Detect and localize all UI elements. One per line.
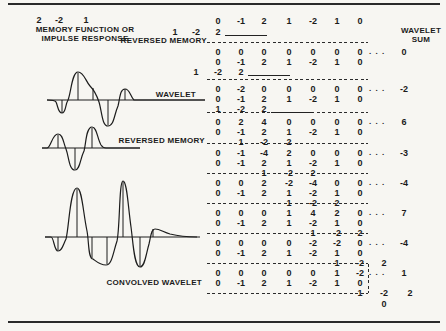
memory-cell: -2 bbox=[356, 259, 364, 268]
wavelet-sum-value: 1 bbox=[401, 269, 406, 278]
wavelet-cell: 0 bbox=[215, 189, 220, 198]
product-cell: 0 bbox=[215, 149, 220, 158]
memory-cell: 2 bbox=[407, 289, 412, 298]
product-cell: 0 bbox=[310, 85, 315, 94]
wavelet-cell: 1 bbox=[334, 249, 339, 258]
product-cell: 0 bbox=[357, 48, 362, 57]
wavelet-cell: 1 bbox=[286, 17, 291, 26]
product-cell: 4 bbox=[261, 118, 266, 127]
wavelet-cell: -1 bbox=[237, 219, 245, 228]
sum-dots: . . . bbox=[369, 118, 385, 126]
wavelet-cell: 2 bbox=[261, 17, 266, 26]
wavelet-cell: 2 bbox=[261, 219, 266, 228]
memory-cell: 2 bbox=[286, 138, 291, 147]
product-cell: 0 bbox=[310, 118, 315, 127]
wavelet-cell: 0 bbox=[357, 159, 362, 168]
sum-dots: . . . bbox=[369, 209, 385, 217]
product-cell: 0 bbox=[215, 85, 220, 94]
wavelet-cell: 2 bbox=[261, 159, 266, 168]
wavelet-sum-value: 0 bbox=[401, 48, 406, 57]
memory-cell: -2 bbox=[285, 169, 293, 178]
product-cell: 0 bbox=[357, 209, 362, 218]
wavelet-cell: -2 bbox=[309, 279, 317, 288]
memory-cell: 2 bbox=[238, 68, 243, 77]
memory-cell: 1 bbox=[238, 138, 243, 147]
wavelet-cell: 1 bbox=[286, 189, 291, 198]
product-cell: 0 bbox=[215, 239, 220, 248]
memory-cell: 2 bbox=[381, 259, 386, 268]
memory-underline bbox=[225, 35, 267, 36]
memory-cell: -2 bbox=[333, 229, 341, 238]
wavelet-cell: 0 bbox=[215, 159, 220, 168]
wavelet-cell: 2 bbox=[261, 128, 266, 137]
wavelet-cell: 1 bbox=[334, 95, 339, 104]
wavelet-cell: -1 bbox=[237, 128, 245, 137]
product-cell: 0 bbox=[215, 118, 220, 127]
memory-cell: 2 bbox=[215, 28, 220, 37]
table-right-dashed-edge bbox=[368, 264, 369, 293]
product-cell: 0 bbox=[238, 179, 243, 188]
product-cell: 0 bbox=[286, 239, 291, 248]
product-cell: 1 bbox=[286, 209, 291, 218]
product-cell: 0 bbox=[238, 239, 243, 248]
product-cell: 0 bbox=[261, 85, 266, 94]
product-cell: 0 bbox=[334, 149, 339, 158]
memory-cell: 1 bbox=[357, 289, 362, 298]
wavelet-cell: 0 bbox=[357, 128, 362, 137]
product-cell: 0 bbox=[261, 209, 266, 218]
product-cell: 0 bbox=[310, 269, 315, 278]
wavelet-cell: 0 bbox=[357, 189, 362, 198]
product-cell: 0 bbox=[334, 179, 339, 188]
memory-cell: -2 bbox=[237, 105, 245, 114]
product-cell: 0 bbox=[286, 85, 291, 94]
memory-cell: 1 bbox=[310, 229, 315, 238]
memory-cell: 2 bbox=[261, 105, 266, 114]
dashed-separator bbox=[207, 293, 368, 294]
memory-cell: 1 bbox=[215, 105, 220, 114]
product-cell: 0 bbox=[310, 149, 315, 158]
product-cell: 2 bbox=[261, 179, 266, 188]
wavelet-cell: 0 bbox=[357, 95, 362, 104]
product-cell: 0 bbox=[215, 48, 220, 57]
product-cell: -4 bbox=[309, 179, 317, 188]
wavelet-cell: 1 bbox=[286, 159, 291, 168]
wavelet-cell: 0 bbox=[357, 249, 362, 258]
product-cell: 0 bbox=[334, 48, 339, 57]
product-cell: -4 bbox=[260, 149, 268, 158]
wavelet-sum-value: -3 bbox=[400, 149, 408, 158]
wavelet-cell: 0 bbox=[215, 17, 220, 26]
wavelet-cell: 1 bbox=[334, 17, 339, 26]
product-cell: 0 bbox=[261, 269, 266, 278]
wavelet-sum-value: 7 bbox=[401, 209, 406, 218]
product-cell: 0 bbox=[357, 118, 362, 127]
wavelet-cell: 1 bbox=[334, 279, 339, 288]
wavelet-cell: -2 bbox=[309, 189, 317, 198]
wavelet-cell: 0 bbox=[215, 128, 220, 137]
product-cell: 0 bbox=[238, 209, 243, 218]
memory-cell: -2 bbox=[260, 138, 268, 147]
wavelet-cell: 1 bbox=[286, 249, 291, 258]
wavelet-cell: 1 bbox=[334, 189, 339, 198]
wavelet-cell: -1 bbox=[237, 17, 245, 26]
product-cell: 0 bbox=[286, 269, 291, 278]
product-cell: -2 bbox=[237, 85, 245, 94]
figure-convolution-diagram: 2 -2 1 MEMORY FUNCTION OR IMPULSE RESPON… bbox=[0, 0, 446, 331]
sum-dots: . . . bbox=[369, 269, 385, 277]
wavelet-cell: 1 bbox=[286, 128, 291, 137]
memory-cell: 2 bbox=[357, 229, 362, 238]
product-cell: 0 bbox=[215, 269, 220, 278]
convolved-curve bbox=[45, 181, 197, 267]
wavelet-cell: 1 bbox=[334, 159, 339, 168]
wavelet-cell: -1 bbox=[237, 95, 245, 104]
wavelet-cell: 0 bbox=[215, 58, 220, 67]
product-cell: 0 bbox=[238, 269, 243, 278]
wavelet-cell: 2 bbox=[261, 189, 266, 198]
memory-cell: 1 bbox=[286, 199, 291, 208]
product-cell: 0 bbox=[357, 179, 362, 188]
memory-cell: -2 bbox=[192, 28, 200, 37]
wavelet-sum-value: 6 bbox=[401, 118, 406, 127]
wavelet-cell: -2 bbox=[309, 219, 317, 228]
wavelet-stems bbox=[62, 73, 125, 125]
dashed-separator bbox=[207, 79, 368, 80]
sum-dots: . . . bbox=[369, 48, 385, 56]
